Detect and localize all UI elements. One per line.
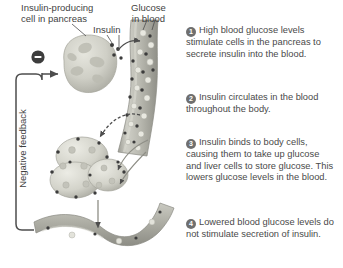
step-4-text: Lowered blood glucose levels do not stim… bbox=[186, 217, 334, 239]
step-2-badge: 2 bbox=[186, 94, 196, 104]
label-insulin: Insulin bbox=[93, 24, 120, 35]
label-pancreas-cell: Insulin-producing cell in pancreas bbox=[21, 2, 93, 24]
step-3-text: Insulin binds to body cells, causing the… bbox=[186, 137, 333, 182]
label-negative-feedback: Negative feedback bbox=[17, 101, 28, 197]
step-4-badge: 4 bbox=[186, 219, 196, 229]
label-glucose-in-blood: Glucose in blood bbox=[131, 2, 166, 24]
step-3: 3Insulin binds to body cells, causing th… bbox=[186, 137, 336, 184]
step-3-badge: 3 bbox=[186, 139, 196, 149]
inhibition-symbol bbox=[31, 50, 44, 63]
step-1-text: High blood glucose levels stimulate cell… bbox=[186, 25, 321, 59]
step-1: 1High blood glucose levels stimulate cel… bbox=[186, 25, 336, 60]
pancreas-cell bbox=[64, 35, 123, 93]
step-4: 4Lowered blood glucose levels do not sti… bbox=[186, 217, 336, 241]
blood-vessel-low-glucose bbox=[34, 203, 174, 246]
body-cells-cluster bbox=[50, 137, 128, 199]
step-2-text: Insulin circulates in the blood througho… bbox=[186, 92, 318, 114]
step-1-badge: 1 bbox=[186, 27, 196, 37]
step-2: 2Insulin circulates in the blood through… bbox=[186, 92, 336, 116]
